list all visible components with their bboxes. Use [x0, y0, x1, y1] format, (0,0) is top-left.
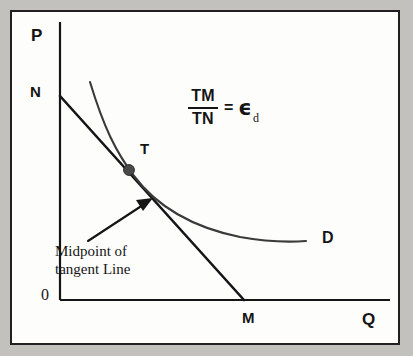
formula-numerator: TM [190, 88, 216, 105]
formula-epsilon-symbol: ϵ [238, 96, 252, 120]
formula-fraction-bar [188, 107, 218, 109]
tangency-point-marker [124, 165, 135, 176]
midpoint-annotation-text: Midpoint of tangent Line [55, 243, 130, 278]
demand-curve-label: D [322, 230, 334, 246]
midpoint-callout-arrow [88, 198, 153, 241]
formula-fraction: TM TN [188, 88, 218, 128]
origin-label: 0 [41, 287, 49, 303]
x-axis-label: Q [362, 311, 375, 328]
formula-equals-sign: = [224, 99, 233, 117]
elasticity-formula: TM TN = ϵ d [188, 88, 259, 128]
point-label-n: N [30, 84, 41, 99]
formula-epsilon-subscript: d [253, 111, 259, 128]
chart-canvas [0, 0, 413, 356]
formula-denominator: TN [191, 111, 215, 128]
point-label-m: M [242, 310, 255, 325]
y-axis-label: P [31, 27, 42, 44]
figure-root: P Q 0 N T M D Midpoint of tangent Line T… [0, 0, 413, 356]
point-label-t: T [140, 141, 149, 156]
